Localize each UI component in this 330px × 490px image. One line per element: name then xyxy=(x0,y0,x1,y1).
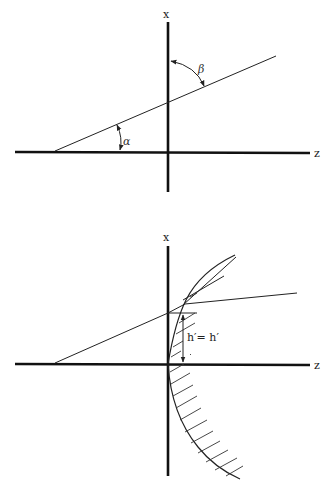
bottom-x-axis-label: x xyxy=(163,231,170,244)
top-inclined-line xyxy=(55,56,276,151)
boundary-curve-upper xyxy=(168,255,235,364)
top-figure: x z α β xyxy=(15,8,320,192)
tangent-line xyxy=(183,257,236,305)
chord-line xyxy=(183,276,224,300)
incident-line xyxy=(55,313,168,363)
top-z-axis-label: z xyxy=(314,147,320,160)
alpha-label: α xyxy=(123,135,131,148)
outgoing-line xyxy=(168,293,297,313)
bottom-figure: x z xyxy=(15,231,320,479)
height-label: h′= h′ xyxy=(187,331,219,344)
top-z-axis xyxy=(15,152,310,153)
hatching-upper xyxy=(171,293,197,357)
diagram-canvas: x z α β x z xyxy=(0,0,330,490)
beta-label: β xyxy=(197,63,204,76)
alpha-arc xyxy=(117,125,121,150)
bottom-z-axis-label: z xyxy=(314,359,320,372)
top-x-axis-label: x xyxy=(163,8,170,21)
bottom-z-axis xyxy=(15,364,310,365)
